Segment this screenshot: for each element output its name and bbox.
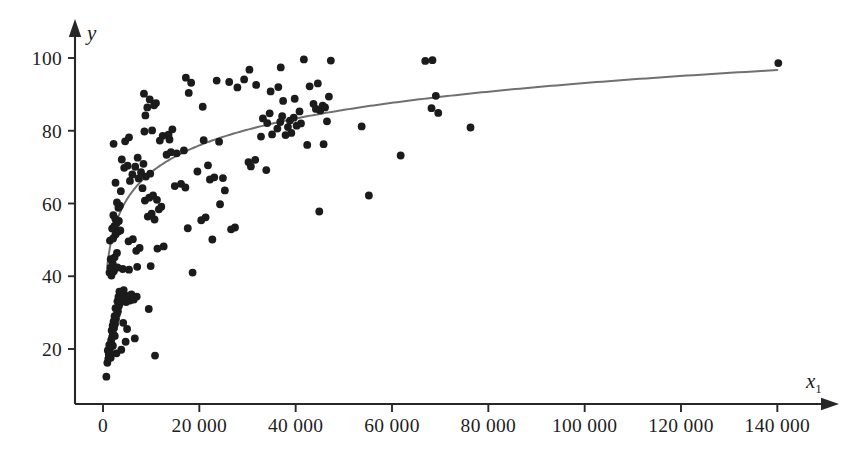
data-point	[110, 140, 118, 148]
data-point	[151, 216, 159, 224]
data-point	[185, 89, 193, 97]
data-point	[181, 184, 189, 192]
y-axis-tick-label: 100	[32, 48, 62, 69]
y-axis-tick-label: 40	[42, 266, 62, 287]
x-axis-tick-label: 0	[98, 415, 108, 436]
data-point	[148, 126, 156, 134]
data-point	[267, 88, 275, 96]
data-point	[397, 152, 405, 160]
data-point	[153, 196, 161, 204]
data-point	[467, 124, 475, 132]
data-point	[117, 187, 125, 195]
data-point	[160, 243, 168, 251]
data-point	[137, 168, 145, 176]
data-point	[113, 249, 121, 257]
data-point	[240, 76, 248, 84]
data-point	[278, 112, 286, 120]
data-point	[168, 125, 176, 133]
data-point	[134, 154, 142, 162]
plot-svg: 20406080100020 00040 00060 00080 000100 …	[0, 0, 863, 468]
data-point	[129, 235, 137, 243]
data-point	[184, 224, 192, 232]
data-point	[252, 81, 260, 89]
data-point	[140, 90, 148, 98]
data-point	[221, 187, 229, 195]
data-point	[365, 192, 373, 200]
data-point	[102, 373, 110, 381]
data-point	[314, 80, 322, 88]
data-point	[213, 77, 221, 85]
data-point	[139, 184, 147, 192]
data-point	[233, 84, 241, 92]
data-point	[279, 97, 287, 105]
data-point	[180, 146, 188, 154]
data-point	[116, 227, 124, 235]
data-point	[113, 199, 121, 207]
data-point	[290, 114, 298, 122]
x-axis-tick-label: 20 000	[172, 415, 227, 436]
data-point	[143, 104, 151, 112]
data-point	[125, 133, 133, 141]
x-axis-tick-label: 80 000	[461, 415, 516, 436]
data-point	[145, 305, 153, 313]
data-point	[432, 92, 440, 100]
data-point	[274, 83, 282, 91]
data-point	[208, 236, 216, 244]
data-point	[327, 57, 335, 65]
x-axis-arrowhead	[821, 398, 839, 410]
data-point	[133, 293, 141, 301]
data-point	[189, 269, 197, 277]
data-point	[111, 332, 119, 340]
data-point	[219, 174, 227, 182]
data-point	[125, 266, 133, 274]
x-axis-tick-label: 140 000	[745, 415, 810, 436]
data-point	[296, 108, 304, 116]
axis-labels-layer: yx1	[85, 21, 822, 396]
data-point	[434, 109, 442, 117]
data-point	[300, 56, 308, 64]
data-point	[147, 262, 155, 270]
data-point	[246, 66, 254, 74]
data-point	[173, 149, 181, 157]
data-point	[157, 203, 165, 211]
data-point	[277, 64, 285, 72]
data-point	[251, 156, 259, 164]
data-point	[151, 352, 159, 360]
data-point	[141, 128, 149, 136]
data-point	[146, 170, 154, 178]
data-point	[118, 156, 126, 164]
data-point	[421, 57, 429, 65]
data-point	[200, 136, 208, 144]
data-point	[262, 166, 270, 174]
data-point	[320, 140, 328, 148]
data-point	[297, 120, 305, 128]
data-point	[133, 263, 141, 271]
data-point	[245, 158, 253, 166]
data-point	[112, 179, 120, 187]
data-point	[210, 173, 218, 181]
data-point	[107, 354, 115, 362]
data-point	[358, 122, 366, 130]
x-axis-tick-label: 120 000	[648, 415, 713, 436]
data-points-layer	[102, 56, 782, 381]
data-point	[259, 114, 267, 122]
data-point	[202, 213, 210, 221]
data-point	[310, 100, 318, 108]
x-axis-tick-label: 100 000	[552, 415, 617, 436]
x-axis-tick-label: 60 000	[364, 415, 419, 436]
data-point	[284, 123, 292, 131]
data-point	[124, 162, 132, 170]
data-point	[111, 215, 119, 223]
y-axis-arrowhead	[69, 19, 81, 37]
data-point	[216, 200, 224, 208]
data-point	[319, 102, 327, 110]
data-point	[303, 141, 311, 149]
data-point	[128, 171, 136, 179]
scatter-plot-figure: 20406080100020 00040 00060 00080 000100 …	[0, 0, 863, 468]
data-point	[194, 168, 202, 176]
data-point	[199, 103, 207, 111]
data-point	[306, 82, 314, 90]
y-axis-tick-label: 80	[42, 121, 62, 142]
data-point	[131, 335, 139, 343]
data-point	[325, 93, 333, 101]
